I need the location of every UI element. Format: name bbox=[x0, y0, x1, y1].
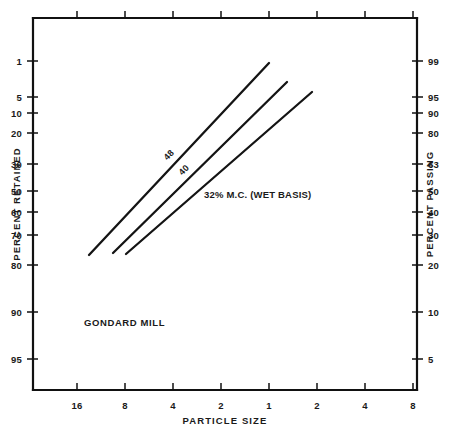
series-label-0: 48 bbox=[162, 148, 177, 163]
y-axis-left-title: PERCENT RETAINED bbox=[11, 147, 22, 261]
chart-container: 168421248 15102030506070809095 999590806… bbox=[0, 0, 449, 436]
y-left-tick-label-0: 1 bbox=[17, 56, 23, 67]
series-line-1 bbox=[113, 82, 287, 253]
x-tick-label-0: 16 bbox=[72, 400, 83, 411]
data-series-lines bbox=[89, 63, 312, 255]
y-left-tick-label-1: 5 bbox=[17, 92, 23, 103]
x-tick-label-2: 4 bbox=[170, 400, 176, 411]
y-right-tick-label-1: 95 bbox=[428, 92, 439, 103]
series-label-1: 40 bbox=[177, 163, 192, 178]
x-tick-label-7: 8 bbox=[410, 400, 415, 411]
y-right-tick-label-2: 90 bbox=[428, 108, 439, 119]
particle-size-distribution-chart: 168421248 15102030506070809095 999590806… bbox=[0, 0, 449, 436]
x-axis-title: PARTICLE SIZE bbox=[183, 415, 268, 426]
plot-frame bbox=[33, 18, 417, 390]
y-axis-right-title: PERCENT PASSING bbox=[424, 151, 435, 258]
y-right-tick-label-10: 5 bbox=[428, 354, 434, 365]
x-tick-label-5: 2 bbox=[314, 400, 319, 411]
chart-annotations: GONDARD MILL bbox=[84, 317, 165, 328]
x-tick-label-1: 8 bbox=[122, 400, 127, 411]
y-left-tick-label-9: 90 bbox=[11, 307, 22, 318]
y-right-tick-label-0: 99 bbox=[428, 56, 439, 67]
y-left-tick-label-3: 20 bbox=[11, 128, 22, 139]
y-left-tick-label-2: 10 bbox=[11, 108, 22, 119]
y-left-tick-label-10: 95 bbox=[11, 354, 22, 365]
x-tick-label-6: 4 bbox=[362, 400, 368, 411]
series-line-0 bbox=[89, 63, 269, 255]
x-tick-label-3: 2 bbox=[218, 400, 223, 411]
y-right-tick-label-8: 20 bbox=[428, 260, 439, 271]
annotation-0: GONDARD MILL bbox=[84, 317, 165, 328]
series-inline-labels: 484032% M.C. (WET BASIS) bbox=[162, 148, 312, 200]
y-right-tick-label-9: 10 bbox=[428, 307, 439, 318]
x-tick-label-4: 1 bbox=[266, 400, 272, 411]
series-label-2: 32% M.C. (WET BASIS) bbox=[204, 189, 311, 200]
x-axis-tick-labels: 168421248 bbox=[72, 400, 416, 411]
y-right-tick-label-3: 80 bbox=[428, 128, 439, 139]
